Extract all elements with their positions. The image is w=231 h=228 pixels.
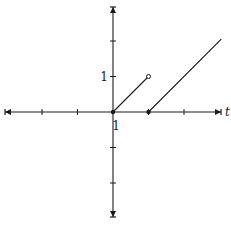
segment-2-line bbox=[149, 39, 222, 112]
filled-dot-icon bbox=[111, 110, 115, 114]
series-group bbox=[111, 39, 221, 114]
filled-dot-icon bbox=[146, 110, 150, 114]
segment-1-line bbox=[113, 77, 149, 113]
x-tick-label-1: 1 bbox=[112, 119, 120, 133]
x-axis-label: t bbox=[225, 105, 230, 119]
x-axis-right-arrow-icon bbox=[215, 109, 221, 115]
y-axis-bottom-arrow-icon bbox=[110, 211, 116, 217]
function-plot: 1 1 t bbox=[0, 0, 231, 228]
open-circle-icon bbox=[147, 75, 151, 79]
y-tick-label-1: 1 bbox=[100, 70, 108, 84]
y-axis-top-arrow-icon bbox=[110, 7, 116, 13]
x-axis-left-arrow-icon bbox=[5, 109, 11, 115]
